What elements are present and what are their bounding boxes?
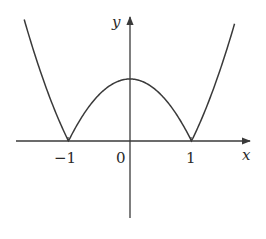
tick-label-0: 0 xyxy=(116,149,126,167)
y-axis-label: y xyxy=(111,13,121,31)
function-graph: y x −1 0 1 xyxy=(0,0,266,239)
tick-label-neg1: −1 xyxy=(54,149,76,167)
tick-label-1: 1 xyxy=(186,149,196,167)
x-axis-label: x xyxy=(242,146,251,164)
